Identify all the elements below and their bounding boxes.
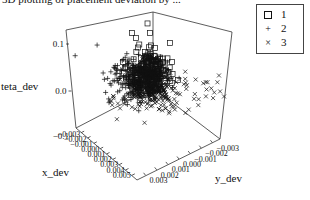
x-axis-label: x_dev xyxy=(42,166,69,178)
scatter3d-chart: 3D plotting of placement deviation by ..… xyxy=(0,0,310,200)
plus-marker-icon: + xyxy=(263,22,273,35)
legend-label: 2 xyxy=(281,22,287,35)
z-axis-label: teta_dev xyxy=(1,80,39,92)
x-tick-label: 0.005 xyxy=(113,171,131,180)
legend-label: 3 xyxy=(281,36,287,49)
z-tick-label: 0.1 xyxy=(53,39,64,49)
legend: 1 + 2 × 3 xyxy=(256,4,304,54)
cross-marker-icon: × xyxy=(263,36,273,49)
y-tick-label: 0.003 xyxy=(150,176,168,185)
legend-item-2: + 2 xyxy=(257,22,303,35)
z-tick-label: 0.0 xyxy=(55,86,67,96)
legend-label: 1 xyxy=(281,8,287,21)
square-marker-icon xyxy=(263,8,273,21)
data-points xyxy=(73,21,226,125)
y-axis-label: y_dev xyxy=(215,172,242,184)
z-axis-ticks: 0.10.0−0.1 xyxy=(53,39,74,141)
x-axis-ticks: −0.003−0.002−0.0010.0000.0010.0020.0030.… xyxy=(58,130,135,180)
legend-item-3: × 3 xyxy=(257,36,303,49)
legend-item-1: 1 xyxy=(257,8,303,21)
